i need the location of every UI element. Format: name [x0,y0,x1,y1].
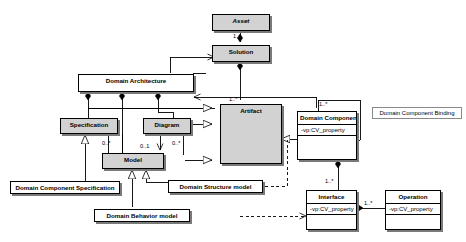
class-domain-component-specification[interactable]: Domain Component Specification [10,181,120,194]
class-diagram[interactable]: Diagram [143,118,191,134]
class-domain-component-specification-title: Domain Component Specification [15,184,114,191]
class-interface-operations-compartment [307,214,356,224]
class-domain-component-title: Domain Component [298,112,356,124]
class-solution-title: Solution [213,46,269,58]
class-operation[interactable]: Operation -vp:CV_property [385,190,441,230]
class-domain-component-attribute: -vp:CV_property [298,124,356,135]
class-asset[interactable]: Asset [212,14,270,31]
multiplicity-diagram-model: 0..* [172,140,180,146]
multiplicity-interface-to-component: 1..* [325,178,333,184]
class-asset-title: Asset [213,15,269,27]
multiplicity-operation-to-interface: 1..* [364,200,372,206]
class-specification-title: Specification [61,119,117,131]
class-interface-attribute: -vp:CV_property [307,203,356,214]
multiplicity-specification-model: 0..* [102,140,110,146]
class-domain-component-operations-compartment [298,135,356,145]
uml-class-diagram: Asset Solution Domain Architecture Artif… [0,0,466,242]
multiplicity-domain-component-top: 1..* [319,101,327,107]
class-domain-architecture[interactable]: Domain Architecture [78,74,194,92]
class-artifact[interactable]: Artifact [220,104,282,164]
class-domain-architecture-title: Domain Architecture [79,75,193,87]
class-diagram-title: Diagram [144,119,190,131]
class-interface[interactable]: Interface -vp:CV_property [306,190,357,230]
class-domain-behavior-model-title: Domain Behavior model [107,212,178,219]
class-model[interactable]: Model [102,153,164,169]
class-domain-component[interactable]: Domain Component -vp:CV_property [297,111,357,160]
class-interface-title: Interface [307,191,356,203]
multiplicity-solution-artifact: 1..* [229,96,237,102]
multiplicity-asset-solution: 1 [233,33,236,39]
class-domain-structure-model[interactable]: Domain Structure model [168,180,263,193]
class-solution[interactable]: Solution [212,45,270,62]
class-domain-behavior-model[interactable]: Domain Behavior model [94,209,190,222]
note-domain-component-binding-label: Domain Component Binding [379,110,454,116]
class-domain-structure-model-title: Domain Structure model [180,183,252,190]
class-model-title: Model [103,154,163,166]
class-operation-title: Operation [386,191,440,203]
class-artifact-title: Artifact [221,105,281,117]
class-operation-operations-compartment [386,214,440,224]
class-specification[interactable]: Specification [60,118,118,134]
multiplicity-model-diagram-left: 0..1 [140,143,149,149]
note-domain-component-binding[interactable]: Domain Component Binding [372,107,462,119]
class-operation-attribute: -vp:CV_property [386,203,440,214]
